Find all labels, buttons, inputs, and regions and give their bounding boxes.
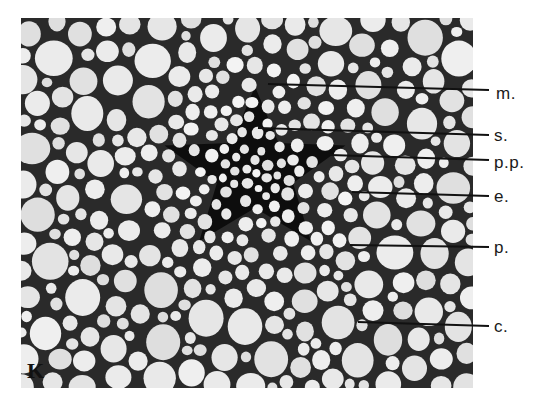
- panel-letter: K: [27, 360, 44, 382]
- cell-pattern: [21, 18, 473, 388]
- label-pericycle: p.: [494, 239, 509, 256]
- label-cortex: c.: [494, 318, 508, 335]
- label-sieve-tube: s.: [494, 127, 508, 144]
- figure: K m. s. p.p. e. p. c.: [0, 0, 553, 417]
- root-cross-section-micrograph: [21, 18, 473, 388]
- label-metaxylem: m.: [496, 85, 516, 102]
- label-endodermis: e.: [494, 188, 509, 205]
- label-protophloem: p.p.: [494, 154, 524, 171]
